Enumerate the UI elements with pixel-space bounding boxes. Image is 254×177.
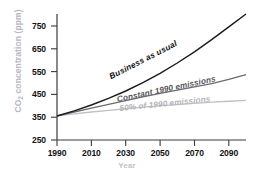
x-tick-label-2010: 2010	[73, 148, 109, 158]
y-axis-ticks	[51, 26, 57, 140]
x-axis-ticks	[57, 140, 229, 146]
x-tick-label-2050: 2050	[142, 148, 178, 158]
x-tick-label-2090: 2090	[211, 148, 247, 158]
x-axis-title: Year	[0, 161, 254, 170]
y-axis-title-suffix: concentration (ppm)	[13, 9, 23, 96]
y-axis-title-subscript: 2	[17, 96, 24, 100]
co2-projection-chart: 750 650 550 450 350 250 1990 2010 2030 2…	[0, 0, 254, 177]
x-tick-label-2030: 2030	[108, 148, 144, 158]
y-axis-title-prefix: CO	[13, 100, 23, 113]
x-tick-label-2070: 2070	[177, 148, 213, 158]
y-tick-label-250: 250	[16, 135, 46, 145]
y-axis-title: CO2 concentration (ppm)	[13, 0, 23, 131]
x-tick-label-1990: 1990	[39, 148, 75, 158]
